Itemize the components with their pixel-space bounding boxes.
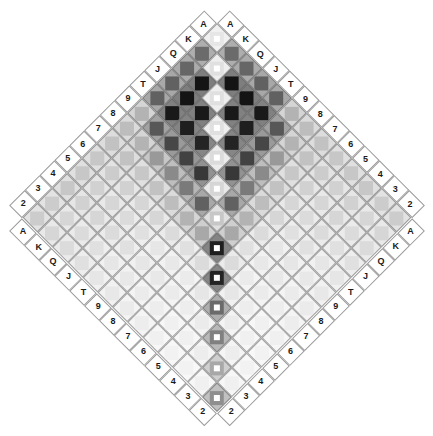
matrix-diagonal-marker <box>214 335 220 341</box>
matrix-diagonal-marker <box>214 185 220 191</box>
matrix-cell-diamond <box>105 196 119 210</box>
matrix-cell-diamond <box>240 151 254 165</box>
matrix-diagonal-marker <box>214 155 220 161</box>
top-left-axis-tick-label: 6 <box>80 140 85 149</box>
matrix-cell-diamond <box>300 301 314 315</box>
matrix-diagonal-marker <box>214 305 220 311</box>
top-right-axis-tick-label: K <box>242 35 249 44</box>
matrix-cell-diamond <box>150 301 164 315</box>
matrix-cell-diamond <box>120 241 134 255</box>
matrix-cell-diamond <box>330 271 344 285</box>
bottom-right-axis-tick-label: 2 <box>228 407 233 416</box>
matrix-cell-diamond <box>315 136 329 150</box>
matrix-diagonal-marker <box>214 275 220 281</box>
matrix-cell-diamond <box>120 151 134 165</box>
matrix-cell-diamond <box>315 256 329 270</box>
top-right-axis-tick-label: T <box>288 80 294 89</box>
matrix-cell-diamond <box>165 226 179 240</box>
matrix-cell-diamond <box>120 211 134 225</box>
top-right-axis-tick-label: 2 <box>408 200 413 209</box>
matrix-cell-diamond <box>165 286 179 300</box>
matrix-cell-diamond <box>360 211 374 225</box>
matrix-cell-diamond <box>225 316 239 330</box>
matrix-cell-diamond <box>255 286 269 300</box>
bottom-left-axis-tick-label: 9 <box>95 302 100 311</box>
matrix-cell-diamond <box>195 346 209 360</box>
matrix-cell-diamond <box>75 256 89 270</box>
bottom-right-axis-tick-label: T <box>348 287 354 296</box>
matrix-cell-diamond <box>255 196 269 210</box>
matrix-cell-diamond <box>165 76 179 90</box>
top-left-axis-tick-label: A <box>199 20 206 29</box>
top-right-axis-tick-label: 4 <box>378 170 383 179</box>
matrix-diagonal-marker <box>214 35 220 41</box>
matrix-cell-diamond <box>165 136 179 150</box>
matrix-cell-diamond <box>255 76 269 90</box>
matrix-cell-diamond <box>225 226 239 240</box>
matrix-cell-diamond <box>180 121 194 135</box>
matrix-cell-diamond <box>60 211 74 225</box>
top-left-axis-tick-label: 3 <box>35 185 40 194</box>
top-right-axis-tick-label: 5 <box>363 155 368 164</box>
matrix-cell-diamond <box>330 151 344 165</box>
matrix-cell-diamond <box>180 151 194 165</box>
matrix-cell-diamond <box>195 166 209 180</box>
matrix-cell-diamond <box>300 241 314 255</box>
bottom-left-axis-tick-label: T <box>80 287 86 296</box>
top-right-axis-tick-label: 7 <box>333 125 338 134</box>
top-left-axis-tick-label: Q <box>169 50 176 59</box>
matrix-cell-diamond <box>270 211 284 225</box>
top-right-axis-tick-label: 8 <box>318 110 323 119</box>
matrix-cell-diamond <box>60 241 74 255</box>
matrix-cell-diamond <box>345 226 359 240</box>
top-left-axis-tick-label: T <box>140 80 146 89</box>
bottom-left-axis-tick-label: J <box>65 272 70 281</box>
matrix-cell-diamond <box>120 181 134 195</box>
matrix-cell-diamond <box>180 331 194 345</box>
bottom-left-axis-tick-label: A <box>20 227 27 236</box>
matrix-cell-diamond <box>270 181 284 195</box>
matrix-cell-diamond <box>345 196 359 210</box>
matrix-cell-diamond <box>225 166 239 180</box>
top-left-axis-tick-label: 9 <box>125 95 130 104</box>
matrix-cell-diamond <box>150 91 164 105</box>
matrix-cell-diamond <box>105 256 119 270</box>
bottom-right-axis-tick-label: 4 <box>258 377 263 386</box>
matrix-cell-diamond <box>300 211 314 225</box>
matrix-cell-diamond <box>75 226 89 240</box>
figure-canvas: AKQJT98765432AKQJT98765432AKQJT98765432A… <box>0 0 433 436</box>
matrix-diagonal-marker <box>214 65 220 71</box>
matrix-cell-diamond <box>150 181 164 195</box>
matrix-cell-diamond <box>240 241 254 255</box>
matrix-cell-diamond <box>165 166 179 180</box>
bottom-right-axis-tick-label: 6 <box>288 347 293 356</box>
matrix-diagonal-marker <box>214 245 220 251</box>
matrix-cell-diamond <box>195 286 209 300</box>
matrix-diagonal-marker <box>214 95 220 101</box>
matrix-cell-diamond <box>255 256 269 270</box>
matrix-cell-diamond <box>195 376 209 390</box>
top-left-axis-tick-label: 4 <box>50 170 55 179</box>
matrix-cell-diamond <box>135 226 149 240</box>
matrix-cell-diamond <box>285 226 299 240</box>
matrix-cell-diamond <box>270 151 284 165</box>
matrix-diagonal-marker <box>214 395 220 401</box>
bottom-left-axis-tick-label: 7 <box>125 332 130 341</box>
matrix-cell-diamond <box>285 136 299 150</box>
matrix-cell-diamond <box>330 241 344 255</box>
matrix-grid <box>22 23 412 413</box>
matrix-cell-diamond <box>30 211 44 225</box>
matrix-cell-diamond <box>285 106 299 120</box>
bottom-right-axis-tick-label: 7 <box>303 332 308 341</box>
matrix-cell-diamond <box>225 46 239 60</box>
matrix-cell-diamond <box>135 106 149 120</box>
matrix-cell-diamond <box>270 91 284 105</box>
matrix-cell-diamond <box>285 316 299 330</box>
matrix-cell-diamond <box>195 196 209 210</box>
matrix-cell-diamond <box>270 271 284 285</box>
matrix-cell-diamond <box>255 106 269 120</box>
matrix-cell-diamond <box>90 241 104 255</box>
bottom-left-axis-tick-label: 4 <box>170 377 175 386</box>
matrix-cell-diamond <box>270 301 284 315</box>
matrix-diagonal-marker <box>214 125 220 131</box>
